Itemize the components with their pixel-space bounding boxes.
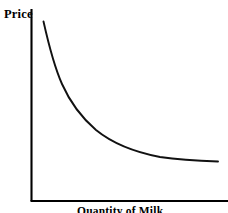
x-axis-label: Quantity of Milk bbox=[77, 205, 163, 213]
plot-area bbox=[0, 0, 228, 213]
demand-curve-line bbox=[44, 22, 219, 162]
y-axis-label: Price bbox=[4, 7, 33, 22]
demand-curve-figure: Price Quantity of Milk bbox=[0, 0, 228, 213]
